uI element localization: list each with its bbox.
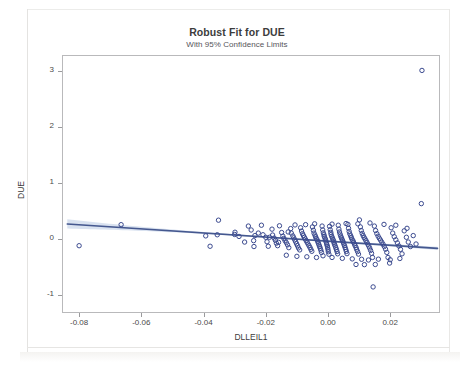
scatter-point (368, 221, 372, 225)
scatter-point (376, 257, 380, 261)
scatter-point (265, 240, 269, 244)
scatter-point (295, 254, 299, 258)
x-tick-mark (266, 313, 267, 317)
scatter-point (252, 244, 256, 248)
scatter-point (259, 223, 263, 227)
scatter-point (293, 223, 297, 227)
plot-svg (62, 55, 440, 313)
scatter-point (256, 231, 260, 235)
scatter-point (208, 244, 212, 248)
scatter-point (366, 258, 370, 262)
x-tick-mark (204, 313, 205, 317)
scatter-point (402, 229, 406, 233)
scatter-point (411, 233, 415, 237)
scatter-point (371, 285, 375, 289)
scatter-point (350, 257, 354, 261)
scatter-point (303, 222, 307, 226)
scatter-point (330, 255, 334, 259)
scatter-point (419, 201, 423, 205)
scatter-point (405, 226, 409, 230)
scatter-points (77, 68, 424, 289)
x-tick-mark (328, 313, 329, 317)
scatter-point (340, 256, 344, 260)
scatter-point (270, 227, 274, 231)
scatter-point (400, 252, 404, 256)
scatter-point (359, 257, 363, 261)
x-tick-label: 0.00 (308, 318, 348, 327)
x-tick-label: -0.04 (184, 318, 224, 327)
scatter-point (420, 68, 424, 72)
scatter-point (369, 251, 373, 255)
scatter-point (389, 226, 393, 230)
scatter-point (398, 256, 402, 260)
scatter-point (356, 222, 360, 226)
x-tick-mark (141, 313, 142, 317)
robust-fit-scatter-chart: Robust Fit for DUE With 95% Confidence L… (0, 0, 474, 374)
scatter-point (266, 244, 270, 248)
x-tick-label: -0.02 (246, 318, 286, 327)
scatter-point (77, 244, 81, 248)
x-tick-label: -0.06 (121, 318, 161, 327)
scatter-point (216, 218, 220, 222)
scatter-point (373, 262, 377, 266)
x-tick-mark (390, 313, 391, 317)
scatter-point (354, 262, 358, 266)
scatter-point (277, 224, 281, 228)
scatter-point (284, 253, 288, 257)
scatter-point (382, 222, 386, 226)
scatter-point (372, 224, 376, 228)
scatter-point (251, 238, 255, 242)
plot-canvas (62, 55, 440, 313)
y-axis-title: DUE (16, 160, 26, 220)
x-axis-title: DLLEIL1 (62, 332, 440, 342)
scatter-point (406, 240, 410, 244)
scatter-point (249, 228, 253, 232)
scatter-point (305, 255, 309, 259)
x-tick-label: -0.08 (59, 318, 99, 327)
scatter-point (404, 235, 408, 239)
scatter-point (362, 262, 366, 266)
scatter-point (314, 255, 318, 259)
scatter-point (242, 240, 246, 244)
x-tick-mark (79, 313, 80, 317)
scatter-point (394, 223, 398, 227)
x-tick-label: 0.02 (370, 318, 410, 327)
scatter-point (204, 234, 208, 238)
